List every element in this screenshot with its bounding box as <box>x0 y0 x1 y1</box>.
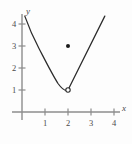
y-tick-label-1: 1 <box>12 85 16 95</box>
curve-left-branch <box>25 16 68 90</box>
y-tick-label-3: 3 <box>12 41 16 51</box>
y-axis-label: y <box>25 6 30 16</box>
x-tick-label-1: 1 <box>43 118 47 128</box>
y-tick-label-2: 2 <box>12 63 16 73</box>
x-tick-label-2: 2 <box>66 118 70 128</box>
curve-right-branch <box>68 16 105 90</box>
graph-figure: 1 2 3 4 1 2 3 4 y x <box>0 0 132 144</box>
filled-dot-point <box>66 44 70 48</box>
x-axis-label: x <box>121 103 126 113</box>
x-tick-label-4: 4 <box>112 118 117 128</box>
x-tick-label-3: 3 <box>89 118 93 128</box>
y-tick-label-4: 4 <box>12 19 17 29</box>
plot-canvas: 1 2 3 4 1 2 3 4 y x <box>0 0 132 144</box>
open-circle-point <box>66 88 70 92</box>
